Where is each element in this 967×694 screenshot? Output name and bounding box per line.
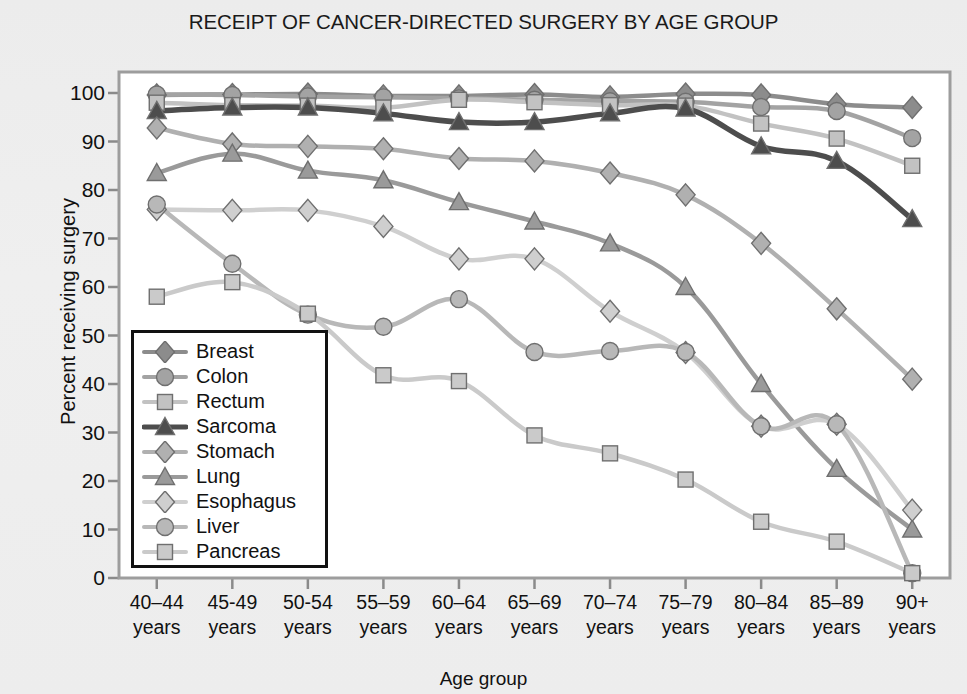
x-tick-range: 85–89 xyxy=(810,590,864,615)
x-tick-label: 70–74years xyxy=(583,590,637,640)
legend-item-rectum[interactable]: Rectum xyxy=(134,389,325,414)
y-tick-label: 40 xyxy=(45,372,105,396)
x-tick-range: 50-54 xyxy=(283,590,333,615)
legend-label: Lung xyxy=(196,465,241,488)
legend-label: Sarcoma xyxy=(196,415,276,438)
y-tick-label: 100 xyxy=(45,81,105,105)
circle-marker-icon xyxy=(142,516,188,538)
legend-label: Liver xyxy=(196,515,239,538)
data-point-liver-0 xyxy=(148,196,165,213)
x-tick-label: 80–84years xyxy=(734,590,788,640)
legend-label: Esophagus xyxy=(196,490,296,513)
legend-item-breast[interactable]: Breast xyxy=(134,339,325,364)
y-tick-label: 10 xyxy=(45,518,105,542)
data-point-rectum-4 xyxy=(451,92,466,107)
x-tick-range: 55–59 xyxy=(356,590,410,615)
legend-label: Rectum xyxy=(196,390,265,413)
square-marker-icon xyxy=(142,541,188,563)
legend-label: Pancreas xyxy=(196,540,281,563)
y-tick-label: 60 xyxy=(45,275,105,299)
x-tick-label: 65–69years xyxy=(507,590,561,640)
data-point-liver-8 xyxy=(753,418,770,435)
x-tick-unit: years xyxy=(734,615,788,640)
diamond-marker-icon xyxy=(142,491,188,513)
data-point-pancreas-5 xyxy=(527,428,542,443)
y-tick-label: 30 xyxy=(45,421,105,445)
legend-item-esophagus[interactable]: Esophagus xyxy=(134,489,325,514)
data-point-pancreas-10 xyxy=(905,566,920,581)
data-point-colon-9 xyxy=(828,102,845,119)
x-tick-range: 45-49 xyxy=(207,590,257,615)
x-tick-unit: years xyxy=(432,615,486,640)
x-tick-label: 55–59years xyxy=(356,590,410,640)
x-tick-range: 65–69 xyxy=(507,590,561,615)
x-tick-unit: years xyxy=(507,615,561,640)
data-point-liver-5 xyxy=(526,343,543,360)
x-tick-range: 90+ xyxy=(888,590,936,615)
data-point-liver-3 xyxy=(375,318,392,335)
x-tick-unit: years xyxy=(583,615,637,640)
diamond-marker-icon xyxy=(142,341,188,363)
legend-label: Colon xyxy=(196,365,248,388)
data-point-rectum-9 xyxy=(829,131,844,146)
x-axis-label: Age group xyxy=(0,668,967,690)
legend-item-stomach[interactable]: Stomach xyxy=(134,439,325,464)
x-tick-label: 40–44years xyxy=(130,590,184,640)
legend-label: Stomach xyxy=(196,440,275,463)
data-point-liver-1 xyxy=(224,255,241,272)
x-tick-range: 75–79 xyxy=(658,590,712,615)
legend-item-sarcoma[interactable]: Sarcoma xyxy=(134,414,325,439)
legend-item-pancreas[interactable]: Pancreas xyxy=(134,539,325,564)
x-tick-label: 90+years xyxy=(888,590,936,640)
y-tick-label: 50 xyxy=(45,324,105,348)
circle-marker-icon xyxy=(142,366,188,388)
data-point-liver-6 xyxy=(602,343,619,360)
legend-label: Breast xyxy=(196,340,254,363)
data-point-colon-10 xyxy=(904,130,921,147)
data-point-rectum-10 xyxy=(905,158,920,173)
y-tick-label: 0 xyxy=(45,566,105,590)
data-point-rectum-8 xyxy=(754,116,769,131)
data-point-pancreas-6 xyxy=(603,446,618,461)
x-tick-unit: years xyxy=(207,615,257,640)
data-point-liver-9 xyxy=(828,416,845,433)
y-tick-label: 90 xyxy=(45,130,105,154)
legend-item-liver[interactable]: Liver xyxy=(134,514,325,539)
y-tick-label: 70 xyxy=(45,227,105,251)
x-tick-unit: years xyxy=(658,615,712,640)
data-point-pancreas-9 xyxy=(829,534,844,549)
x-tick-range: 40–44 xyxy=(130,590,184,615)
diamond-marker-icon xyxy=(142,441,188,463)
legend-item-lung[interactable]: Lung xyxy=(134,464,325,489)
data-point-rectum-5 xyxy=(527,95,542,110)
x-tick-unit: years xyxy=(356,615,410,640)
x-tick-label: 60–64years xyxy=(432,590,486,640)
data-point-pancreas-2 xyxy=(300,306,315,321)
y-tick-label: 20 xyxy=(45,469,105,493)
data-point-pancreas-7 xyxy=(678,472,693,487)
x-tick-unit: years xyxy=(283,615,333,640)
x-tick-label: 50-54years xyxy=(283,590,333,640)
x-tick-label: 75–79years xyxy=(658,590,712,640)
x-tick-range: 70–74 xyxy=(583,590,637,615)
data-point-colon-8 xyxy=(753,99,770,116)
chart-legend: BreastColonRectumSarcomaStomachLungEsoph… xyxy=(131,330,328,568)
chart-title: RECEIPT OF CANCER-DIRECTED SURGERY BY AG… xyxy=(0,10,967,34)
data-point-liver-7 xyxy=(677,343,694,360)
data-point-pancreas-3 xyxy=(376,368,391,383)
square-marker-icon xyxy=(142,391,188,413)
data-point-pancreas-0 xyxy=(149,289,164,304)
x-tick-label: 45-49years xyxy=(207,590,257,640)
legend-item-colon[interactable]: Colon xyxy=(134,364,325,389)
data-point-pancreas-1 xyxy=(225,275,240,290)
data-point-pancreas-8 xyxy=(754,514,769,529)
y-tick-label: 80 xyxy=(45,178,105,202)
triangle-marker-icon xyxy=(142,466,188,488)
chart-figure: RECEIPT OF CANCER-DIRECTED SURGERY BY AG… xyxy=(0,0,967,694)
data-point-pancreas-4 xyxy=(451,374,466,389)
x-tick-unit: years xyxy=(888,615,936,640)
triangle-marker-icon xyxy=(142,416,188,438)
x-tick-unit: years xyxy=(130,615,184,640)
x-tick-unit: years xyxy=(810,615,864,640)
data-point-liver-4 xyxy=(450,291,467,308)
